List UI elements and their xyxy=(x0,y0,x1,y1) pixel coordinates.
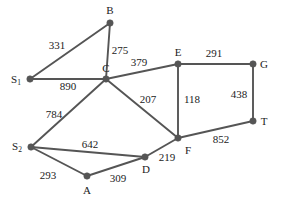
nodes-group xyxy=(27,20,256,179)
edge-d-f xyxy=(145,138,178,157)
node-b xyxy=(107,20,113,26)
node-t xyxy=(250,118,256,124)
edge-s1-b xyxy=(30,23,110,79)
graph-canvas xyxy=(0,0,290,202)
edge-c-s2 xyxy=(31,79,106,147)
edge-f-t xyxy=(178,121,253,138)
edge-a-d xyxy=(87,157,145,176)
node-s1 xyxy=(27,76,33,82)
node-a xyxy=(84,173,90,179)
edges-group xyxy=(30,23,253,176)
edge-c-e xyxy=(106,64,178,79)
node-d xyxy=(142,154,148,160)
edge-b-c xyxy=(106,23,110,79)
graph-diagram: 3312758903792911184382077848526422192933… xyxy=(0,0,290,202)
node-e xyxy=(175,61,181,67)
node-s2 xyxy=(28,144,34,150)
node-f xyxy=(175,135,181,141)
edge-c-f xyxy=(106,79,178,138)
node-g xyxy=(250,61,256,67)
node-c xyxy=(103,76,109,82)
